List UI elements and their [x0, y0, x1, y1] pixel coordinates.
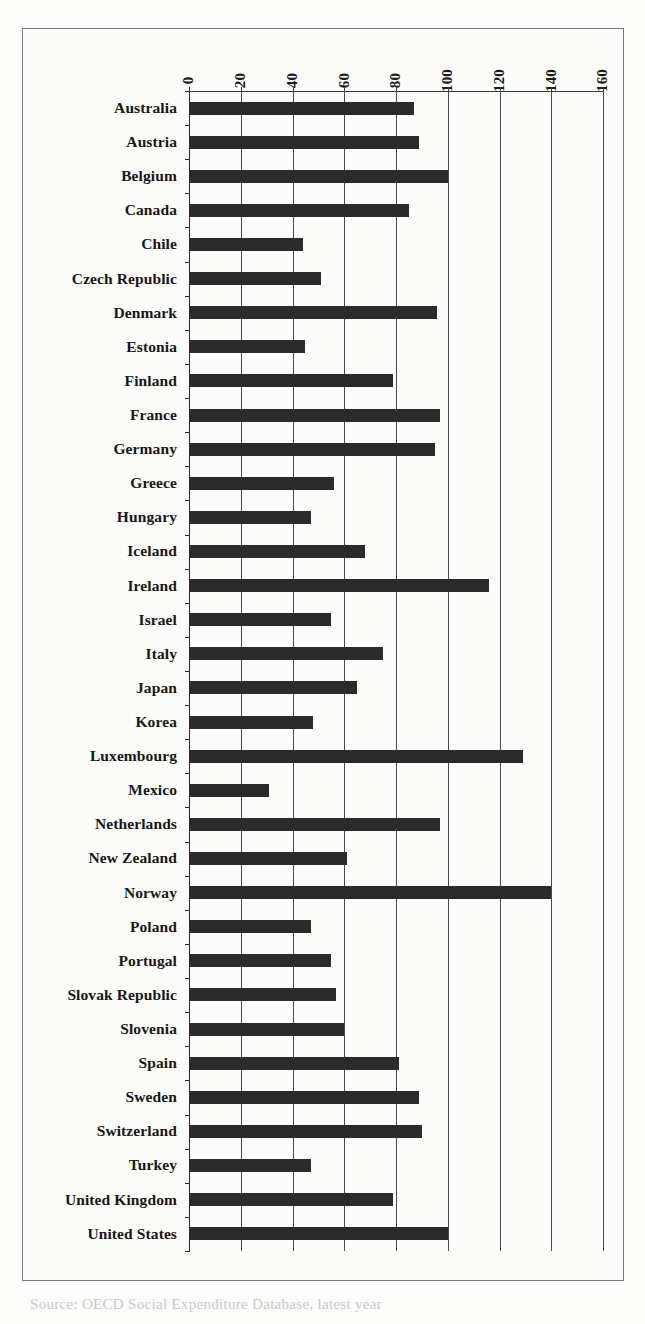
y-tick-label-text: Japan — [136, 679, 177, 697]
x-tick-label-text: 60 — [336, 73, 353, 88]
bar-series — [189, 91, 603, 1251]
bar-row — [189, 534, 603, 568]
y-axis-tick — [185, 227, 190, 228]
bar-row — [189, 841, 603, 875]
bar-row — [189, 876, 603, 910]
x-tick-label-text: 40 — [284, 73, 301, 88]
y-axis-tick — [185, 1115, 190, 1116]
bar-row — [189, 944, 603, 978]
y-tick-label-text: Canada — [125, 201, 177, 219]
gridline — [603, 91, 604, 1251]
bar — [189, 852, 347, 865]
y-tick-label-text: Norway — [124, 884, 177, 902]
bar — [189, 136, 419, 149]
y-axis-tick — [185, 466, 190, 467]
bar — [189, 170, 448, 183]
y-tick-label: Slovak Republic — [23, 978, 183, 1012]
bar-row — [189, 978, 603, 1012]
y-tick-label: Luxembourg — [23, 739, 183, 773]
y-axis-tick — [185, 296, 190, 297]
y-tick-label-text: Czech Republic — [72, 270, 177, 288]
bar — [189, 784, 269, 797]
y-axis-category-labels: AustraliaAustriaBelgiumCanadaChileCzech … — [23, 91, 183, 1251]
y-axis-tick — [185, 91, 190, 92]
y-tick-label-text: Slovak Republic — [67, 986, 177, 1004]
y-axis-tick — [185, 1080, 190, 1081]
y-axis-tick — [185, 1012, 190, 1013]
bar — [189, 306, 437, 319]
y-tick-label: Chile — [23, 227, 183, 261]
bar — [189, 954, 331, 967]
y-axis-tick — [185, 1217, 190, 1218]
bar-row — [189, 159, 603, 193]
x-tick-label-text: 80 — [388, 73, 405, 88]
page-root: 020406080100120140160 AustraliaAustriaBe… — [0, 0, 645, 1324]
bar-row — [189, 1114, 603, 1148]
y-tick-label: Estonia — [23, 330, 183, 364]
bar — [189, 443, 435, 456]
y-tick-label: Germany — [23, 432, 183, 466]
bar-row — [189, 1012, 603, 1046]
y-tick-label-text: Chile — [141, 235, 177, 253]
y-tick-label-text: Germany — [113, 440, 177, 458]
y-tick-label-text: Finland — [125, 372, 177, 390]
y-tick-label: Spain — [23, 1046, 183, 1080]
bar-chart: 020406080100120140160 AustraliaAustriaBe… — [23, 29, 625, 1282]
bar — [189, 1057, 399, 1070]
bar-row — [189, 773, 603, 807]
bar — [189, 204, 409, 217]
y-axis-tick — [185, 1251, 190, 1252]
bar — [189, 272, 321, 285]
y-tick-label: Denmark — [23, 296, 183, 330]
y-tick-label-text: Slovenia — [120, 1020, 177, 1038]
y-tick-label: Greece — [23, 466, 183, 500]
y-tick-label: Turkey — [23, 1148, 183, 1182]
y-tick-label-text: United States — [87, 1225, 177, 1243]
bar — [189, 818, 440, 831]
y-tick-label-text: Poland — [130, 918, 177, 936]
y-tick-label: Switzerland — [23, 1114, 183, 1148]
bar — [189, 1023, 344, 1036]
bar-row — [189, 569, 603, 603]
bar — [189, 1125, 422, 1138]
y-axis-tick — [185, 910, 190, 911]
x-axis-tick-labels: 020406080100120140160 — [189, 29, 603, 91]
figure-caption: Source: OECD Social Expenditure Database… — [30, 1296, 620, 1324]
y-tick-label: Korea — [23, 705, 183, 739]
bar-row — [189, 91, 603, 125]
y-tick-label: Belgium — [23, 159, 183, 193]
y-tick-label: Japan — [23, 671, 183, 705]
y-axis-tick — [185, 535, 190, 536]
bar — [189, 647, 383, 660]
bar — [189, 988, 336, 1001]
bar — [189, 374, 393, 387]
bar-row — [189, 227, 603, 261]
y-tick-label: Norway — [23, 876, 183, 910]
y-tick-label-text: Luxembourg — [90, 747, 177, 765]
y-tick-label: Australia — [23, 91, 183, 125]
bar — [189, 886, 551, 899]
bar — [189, 409, 440, 422]
bar-row — [189, 330, 603, 364]
caption-text: Source: OECD Social Expenditure Database… — [30, 1296, 620, 1313]
bar — [189, 1159, 311, 1172]
y-tick-label-text: Ireland — [127, 577, 177, 595]
x-tick-label-text: 20 — [232, 73, 249, 88]
y-tick-label-text: Turkey — [129, 1156, 177, 1174]
y-tick-label-text: Greece — [130, 474, 177, 492]
y-axis-tick — [185, 705, 190, 706]
y-tick-label: Iceland — [23, 534, 183, 568]
y-tick-label: United States — [23, 1217, 183, 1251]
y-axis-tick — [185, 1183, 190, 1184]
bar-row — [189, 910, 603, 944]
y-tick-label-text: Netherlands — [95, 815, 177, 833]
bar-row — [189, 432, 603, 466]
y-tick-label-text: Korea — [135, 713, 177, 731]
y-tick-label: Canada — [23, 193, 183, 227]
bar — [189, 920, 311, 933]
y-tick-label-text: Belgium — [121, 167, 177, 185]
y-tick-label: France — [23, 398, 183, 432]
bar-row — [189, 193, 603, 227]
y-tick-label: Finland — [23, 364, 183, 398]
y-tick-label: United Kingdom — [23, 1183, 183, 1217]
